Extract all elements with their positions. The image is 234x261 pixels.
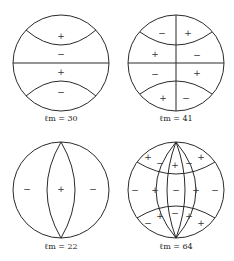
sign-1: − bbox=[23, 184, 31, 194]
sphere-lm22: − + − bbox=[13, 142, 109, 238]
label-lm64: ℓm = 64 bbox=[159, 242, 192, 251]
sign-1: + bbox=[144, 152, 152, 162]
sign-4: − bbox=[193, 50, 201, 60]
sign-4: − bbox=[185, 158, 193, 168]
sign-2: − bbox=[156, 158, 164, 168]
sign-13: + bbox=[185, 211, 193, 221]
sign-8: − bbox=[182, 93, 190, 103]
sign-3: + bbox=[57, 67, 65, 77]
sign-3: − bbox=[89, 184, 97, 194]
spherical-harmonics-diagram: + − + − − + + − − + + − − + − bbox=[0, 0, 234, 261]
sphere-lm30: + − + − bbox=[13, 15, 109, 111]
sign-10: − bbox=[211, 185, 219, 195]
sign-5: + bbox=[197, 152, 205, 162]
sign-2: + bbox=[184, 28, 192, 38]
sign-8: − bbox=[172, 185, 180, 195]
sign-7: + bbox=[159, 93, 167, 103]
sign-3: + bbox=[171, 160, 179, 170]
sign-5: − bbox=[151, 69, 159, 79]
label-lm22: ℓm = 22 bbox=[44, 242, 77, 251]
sign-6: − bbox=[131, 185, 139, 195]
sign-9: + bbox=[192, 185, 200, 195]
sign-6: + bbox=[193, 68, 201, 78]
sign-15: + bbox=[197, 218, 205, 228]
sign-7: + bbox=[151, 185, 159, 195]
sign-3: + bbox=[151, 49, 159, 59]
sign-2: + bbox=[57, 184, 65, 194]
sphere-lm64: + − + − + − + − + − + − + − + bbox=[128, 142, 224, 238]
sign-4: − bbox=[57, 87, 65, 97]
sign-1: − bbox=[158, 28, 166, 38]
label-lm41: ℓm = 41 bbox=[159, 114, 192, 123]
sign-1: + bbox=[57, 31, 65, 41]
sphere-lm41: − + + − − + + − bbox=[128, 15, 224, 111]
sign-2: − bbox=[57, 49, 65, 59]
sign-12: − bbox=[171, 208, 179, 218]
label-lm30: ℓm = 30 bbox=[44, 114, 77, 123]
sign-11: + bbox=[156, 211, 164, 221]
sign-14: − bbox=[144, 218, 152, 228]
